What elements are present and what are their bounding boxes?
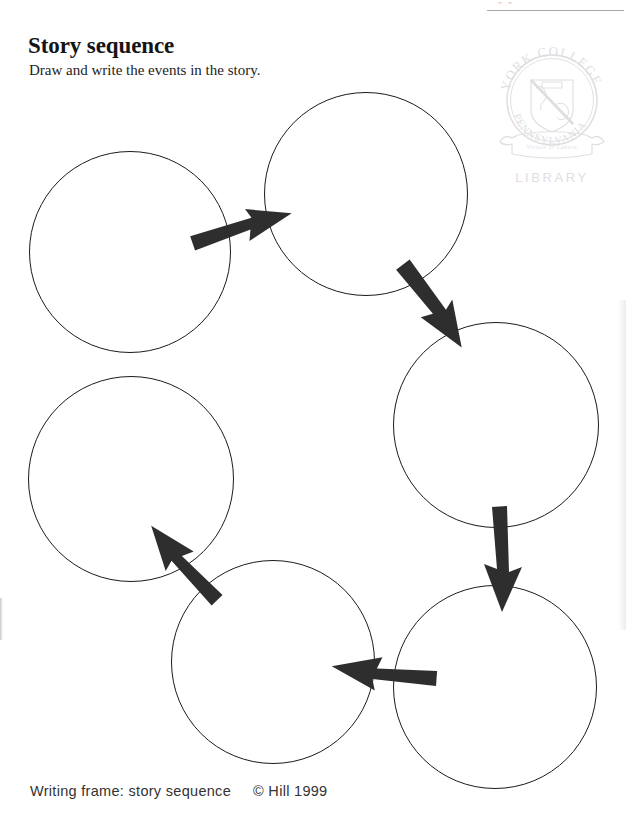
header-scan-marks: " " [498,0,514,10]
york-college-library-stamp: YORK COLLEGE PENNSYLVANIA Virtute et Lab… [494,38,610,188]
svg-text:LIBRARY: LIBRARY [515,170,589,185]
story-circle-5[interactable] [171,560,375,764]
story-circle-3[interactable] [393,322,599,528]
story-circle-2[interactable] [264,92,468,296]
story-circle-6[interactable] [28,376,234,582]
worksheet-page: " " Story sequence Draw and write the ev… [0,0,626,817]
svg-text:YORK COLLEGE: YORK COLLEGE [497,44,605,93]
page-edge-artifact-right [618,300,626,630]
svg-text:Virtute et Labore: Virtute et Labore [527,144,578,150]
footer-label: Writing frame: story sequence [30,783,231,799]
footer: Writing frame: story sequence© Hill 1999 [30,783,327,799]
page-title: Story sequence [28,33,174,59]
svg-text:PENNSYLVANIA: PENNSYLVANIA [512,112,589,146]
story-circle-1[interactable] [29,151,231,353]
story-circle-4[interactable] [393,585,597,789]
header-rule [487,10,624,11]
footer-copyright: © Hill 1999 [253,783,327,799]
page-subtitle: Draw and write the events in the story. [29,62,260,79]
page-edge-artifact-left [0,598,3,640]
